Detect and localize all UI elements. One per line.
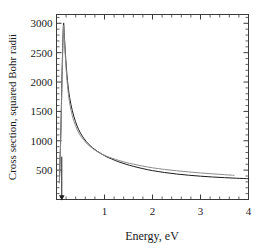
x-axis-label: Energy, eV: [125, 229, 179, 243]
y-tick-label: 1500: [31, 105, 54, 117]
y-tick-label: 2000: [31, 76, 54, 88]
x-tick-label: 1: [102, 205, 108, 217]
y-tick-label: 500: [36, 164, 53, 176]
x-tick-label: 3: [198, 205, 204, 217]
figure-container: Cross section, squared Bohr radii 500100…: [0, 0, 256, 252]
cross-section-vs-energy-chart: 50010001500200025003000 1234 Energy, eV …: [0, 0, 256, 252]
y-tick-label: 3000: [31, 17, 54, 29]
x-tick-label: 4: [246, 205, 252, 217]
x-axis-tick-labels: 1234: [102, 205, 252, 217]
x-tick-label: 2: [150, 205, 156, 217]
y-tick-label: 2500: [31, 47, 54, 59]
y-axis-label: Cross section, squared Bohr radii: [6, 34, 18, 180]
plot-area-border: [57, 15, 249, 200]
y-axis-tick-labels: 50010001500200025003000: [31, 17, 54, 176]
plot-frame: [57, 15, 249, 200]
y-tick-label: 1000: [31, 135, 54, 147]
